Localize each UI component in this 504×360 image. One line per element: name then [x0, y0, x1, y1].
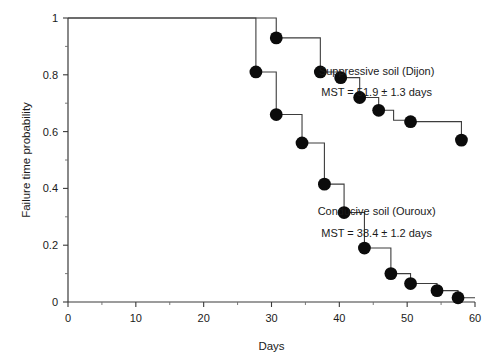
chart-canvas: 010203040506000.20.40.60.81 Suppressive …: [0, 0, 504, 360]
data-point-marker: [404, 115, 417, 128]
y-tick-label: 0.6: [43, 126, 58, 138]
data-point-marker: [270, 31, 283, 44]
data-point-marker: [455, 134, 468, 147]
y-tick-label: 1: [52, 12, 58, 24]
y-tick-label: 0.8: [43, 69, 58, 81]
y-axis-title: Failure time probability: [20, 102, 32, 218]
conducive-label: Conducive soil (Ouroux): [318, 205, 436, 217]
data-point-marker: [318, 178, 331, 191]
data-point-marker: [384, 267, 397, 280]
data-point-marker: [296, 137, 309, 150]
x-tick-label: 20: [198, 312, 210, 324]
survival-chart: 010203040506000.20.40.60.81 Suppressive …: [0, 0, 504, 360]
data-point-marker: [270, 108, 283, 121]
y-tick-label: 0: [52, 296, 58, 308]
conducive-mst: MST = 38.4 ± 1.2 days: [321, 227, 432, 239]
x-tick-label: 50: [401, 312, 413, 324]
data-point-marker: [358, 242, 371, 255]
suppressive-label: Suppressive soil (Dijon): [319, 65, 435, 77]
x-tick-label: 60: [469, 312, 481, 324]
data-point-marker: [452, 291, 465, 304]
data-point-marker: [404, 277, 417, 290]
x-axis-title: Days: [258, 340, 284, 352]
data-point-marker: [431, 284, 444, 297]
x-tick-label: 10: [130, 312, 142, 324]
x-tick-label: 40: [333, 312, 345, 324]
data-point-marker: [249, 66, 262, 79]
data-point-marker: [372, 104, 385, 117]
y-tick-label: 0.4: [43, 182, 58, 194]
suppressive-mst: MST = 51.9 ± 1.3 days: [321, 86, 432, 98]
x-tick-label: 0: [65, 312, 71, 324]
chart-background: [0, 0, 504, 360]
y-tick-label: 0.2: [43, 239, 58, 251]
x-tick-label: 30: [265, 312, 277, 324]
